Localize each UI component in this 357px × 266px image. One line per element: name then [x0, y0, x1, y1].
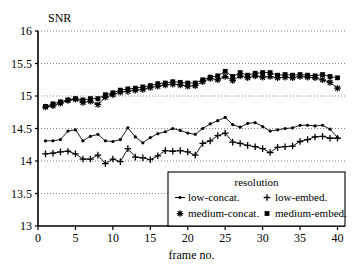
- data-point-dot: [239, 126, 242, 129]
- data-point-square: [110, 90, 115, 95]
- data-point-square: [238, 70, 243, 75]
- data-point-plus: [72, 151, 79, 158]
- data-point-square: [88, 96, 93, 101]
- grid-lines: [38, 31, 345, 194]
- data-point-plus: [65, 148, 72, 155]
- data-point-dot: [321, 124, 324, 127]
- data-point-dot: [171, 127, 174, 130]
- data-point-square: [290, 73, 295, 78]
- legend-entry-medium-concat-[interactable]: medium-concat.: [177, 207, 260, 219]
- legend-label: medium-concat.: [188, 207, 259, 219]
- x-tick-label: 30: [257, 231, 269, 245]
- data-point-dot: [201, 127, 204, 130]
- data-point-dot: [291, 126, 294, 129]
- data-point-plus: [184, 149, 191, 156]
- data-point-dot: [119, 138, 122, 141]
- legend-label: low-embed.: [275, 191, 327, 203]
- y-tick-label: 13: [20, 219, 32, 233]
- legend-label: low-concat.: [188, 191, 240, 203]
- data-point-dot: [59, 138, 62, 141]
- data-point-dot: [194, 133, 197, 136]
- data-point-square: [125, 86, 130, 91]
- data-point-plus: [312, 134, 319, 141]
- data-point-asterisk: [222, 73, 229, 80]
- data-point-plus: [304, 136, 311, 143]
- data-point-square: [43, 104, 48, 109]
- data-point-square: [148, 83, 153, 88]
- data-point-asterisk: [334, 85, 341, 92]
- data-point-square: [335, 75, 340, 80]
- data-point-asterisk: [95, 101, 102, 108]
- data-point-plus: [289, 143, 296, 150]
- data-point-square: [275, 73, 280, 78]
- series-line: [45, 117, 337, 142]
- data-point-plus: [169, 148, 176, 155]
- data-point-square: [320, 72, 325, 77]
- y-tick-label: 14.5: [11, 122, 32, 136]
- data-point-square: [96, 96, 101, 101]
- y-tick-label: 13.5: [11, 187, 32, 201]
- data-point-square: [328, 74, 333, 79]
- data-point-dot: [111, 140, 114, 143]
- series-medium-concat-: [42, 73, 341, 111]
- data-point-square: [268, 70, 273, 75]
- data-point-dot: [74, 128, 77, 131]
- legend-entry-medium-embed-[interactable]: medium-embed.: [265, 207, 347, 219]
- data-point-dot: [104, 139, 107, 142]
- data-point-plus: [162, 147, 169, 154]
- data-point-dot: [261, 125, 264, 128]
- data-point-dot: [306, 124, 309, 127]
- data-point-dot: [336, 136, 339, 139]
- data-point-plus: [117, 158, 124, 165]
- data-point-square: [178, 80, 183, 85]
- data-point-dot: [328, 128, 331, 131]
- data-point-square: [200, 77, 205, 82]
- data-point-square: [58, 99, 63, 104]
- data-point-plus: [155, 153, 162, 160]
- legend: resolutionlow-concat.low-embed.medium-co…: [168, 172, 347, 226]
- data-point-plus: [147, 156, 154, 163]
- data-point-square: [265, 211, 270, 216]
- data-point-square: [230, 74, 235, 79]
- data-point-dot: [283, 127, 286, 130]
- y-tick-label: 15: [20, 89, 32, 103]
- x-axis-ticks: 0510152025303540: [35, 226, 344, 245]
- data-point-dot: [134, 135, 137, 138]
- data-point-plus: [237, 140, 244, 147]
- chart-canvas: 1313.51414.51515.5160510152025303540SNRf…: [0, 0, 357, 266]
- data-point-square: [103, 92, 108, 97]
- x-axis-label: frame no.: [169, 248, 215, 262]
- data-point-plus: [50, 150, 57, 157]
- data-point-plus: [207, 138, 214, 145]
- data-point-plus: [319, 133, 326, 140]
- data-point-dot: [51, 139, 54, 142]
- data-point-dot: [96, 133, 99, 136]
- data-point-dot: [298, 124, 301, 127]
- data-point-dot: [164, 130, 167, 133]
- data-point-dot: [269, 130, 272, 133]
- x-tick-label: 10: [107, 231, 119, 245]
- data-point-asterisk: [319, 76, 326, 83]
- data-point-plus: [140, 154, 147, 161]
- x-tick-label: 20: [182, 231, 194, 245]
- data-point-square: [170, 79, 175, 84]
- data-point-dot: [81, 139, 84, 142]
- x-tick-label: 15: [144, 231, 156, 245]
- data-point-plus: [42, 151, 49, 158]
- legend-title: resolution: [235, 176, 279, 188]
- chart-figure: 1313.51414.51515.5160510152025303540SNRf…: [0, 0, 357, 266]
- data-point-square: [215, 73, 220, 78]
- data-point-plus: [244, 142, 251, 149]
- data-point-plus: [282, 143, 289, 150]
- data-point-dot: [313, 124, 316, 127]
- data-point-square: [51, 101, 56, 106]
- series-low-concat-: [44, 116, 339, 145]
- data-point-dot: [141, 141, 144, 144]
- data-point-dot: [44, 139, 47, 142]
- data-point-square: [305, 73, 310, 78]
- data-point-square: [140, 85, 145, 90]
- x-tick-label: 35: [294, 231, 306, 245]
- data-point-square: [118, 88, 123, 93]
- data-point-dot: [149, 136, 152, 139]
- data-point-dot: [224, 116, 227, 119]
